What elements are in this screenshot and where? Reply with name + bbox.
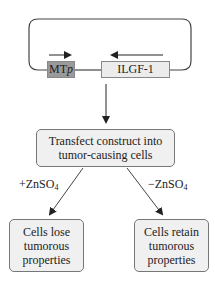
minus-znso4-label: −ZnSO4 (148, 177, 187, 192)
step-line2: tumor-causing cells (49, 148, 163, 162)
mt-promoter-box: MTp (47, 61, 75, 78)
outcome-retain-box: Cells retain tumorous properties (134, 219, 209, 272)
transfect-step-box: Transfect construct into tumor-causing c… (36, 129, 175, 167)
gene-label: ILGF-1 (117, 62, 154, 77)
outcome-lose-box: Cells lose tumorous properties (9, 219, 84, 272)
promoter-label: MT (49, 62, 67, 77)
promoter-suffix: p (67, 62, 73, 77)
ilgf-gene-box: ILGF-1 (101, 61, 170, 78)
plus-znso4-label: +ZnSO4 (19, 177, 58, 192)
step-line1: Transfect construct into (49, 134, 163, 148)
